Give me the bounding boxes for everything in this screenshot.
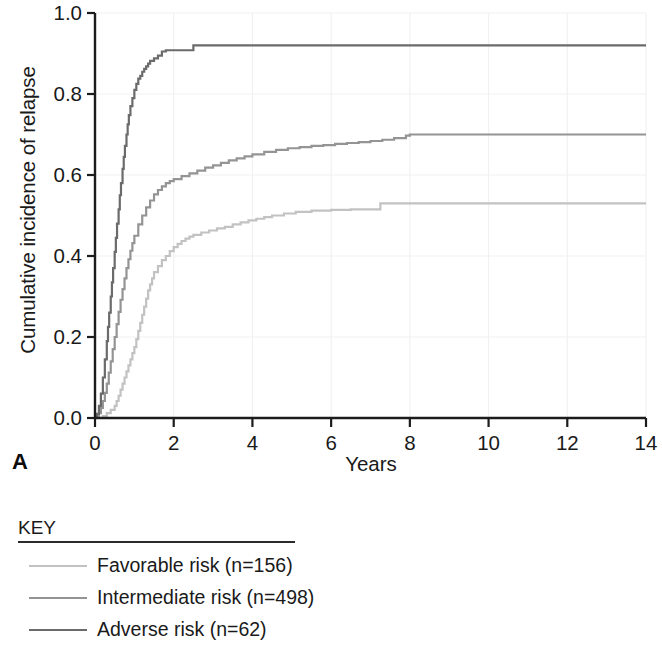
y-axis-title: Cumulative incidence of relapse — [16, 45, 40, 375]
legend-title: KEY — [18, 518, 438, 541]
legend-line-swatch-intermediate — [29, 597, 87, 600]
cumulative-incidence-plot: 0.00.20.40.60.81.002468101214 — [0, 0, 662, 500]
x-tick-label: 2 — [168, 431, 179, 454]
x-tick-label: 0 — [89, 431, 100, 454]
legend-divider — [18, 541, 295, 543]
legend-label-adverse: Adverse risk (n=62) — [97, 618, 267, 641]
y-tick-label: 0.8 — [54, 82, 83, 105]
y-tick-label: 0.6 — [54, 163, 83, 186]
legend-key: KEY Favorable risk (n=156) Intermediate … — [18, 518, 438, 646]
figure-panel-a: 0.00.20.40.60.81.002468101214 Cumulative… — [0, 0, 662, 655]
legend-line-swatch-favorable — [29, 565, 87, 568]
x-tick-label: 14 — [635, 431, 658, 454]
legend-item-intermediate: Intermediate risk (n=498) — [18, 582, 438, 614]
x-tick-label: 6 — [325, 431, 336, 454]
y-tick-label: 0.0 — [54, 406, 83, 429]
legend-item-favorable: Favorable risk (n=156) — [18, 550, 438, 582]
x-tick-label: 4 — [247, 431, 258, 454]
x-tick-label: 12 — [556, 431, 579, 454]
legend-swatch-cell-intermediate — [18, 597, 97, 600]
legend-swatch-cell-adverse — [18, 629, 97, 632]
x-tick-label: 8 — [404, 431, 415, 454]
x-axis-title: Years — [95, 452, 647, 476]
legend-label-intermediate: Intermediate risk (n=498) — [97, 586, 314, 609]
legend-swatch-cell-favorable — [18, 565, 97, 568]
chart-area: 0.00.20.40.60.81.002468101214 Cumulative… — [0, 0, 662, 500]
y-tick-label: 1.0 — [54, 1, 83, 24]
legend-label-favorable: Favorable risk (n=156) — [97, 554, 293, 577]
x-tick-label: 10 — [477, 431, 500, 454]
legend-item-adverse: Adverse risk (n=62) — [18, 614, 438, 646]
y-tick-label: 0.2 — [54, 325, 83, 348]
y-tick-label: 0.4 — [54, 244, 83, 267]
legend-line-swatch-adverse — [29, 629, 87, 632]
panel-label-a: A — [12, 449, 28, 475]
